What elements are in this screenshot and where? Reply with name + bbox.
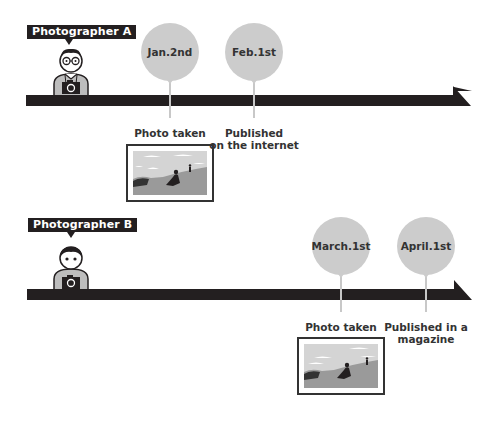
- date-label: March.1st: [312, 240, 371, 252]
- timeline-b-bar: [27, 289, 457, 300]
- timeline-a-bar: [26, 95, 456, 106]
- date-label: Jan.2nd: [148, 46, 193, 58]
- timeline-b-arrow-tip-icon: [451, 280, 473, 301]
- bubble-tip: [338, 274, 344, 278]
- date-bubble-jan-2nd: Jan.2nd: [141, 23, 199, 81]
- event-stem: [340, 274, 342, 312]
- date-label: Feb.1st: [232, 46, 276, 58]
- bubble-tip: [423, 274, 429, 278]
- event-stem: [169, 80, 171, 118]
- date-label: April.1st: [401, 240, 452, 252]
- event-stem: [253, 80, 255, 118]
- bubble-tip: [251, 80, 257, 84]
- photographer-a-tag: Photographer A: [27, 25, 136, 39]
- landscape-photo-icon: [133, 151, 207, 195]
- date-bubble-feb-1st: Feb.1st: [225, 23, 283, 81]
- photographer-b-tag: Photographer B: [28, 218, 137, 232]
- tag-pointer: [67, 232, 75, 238]
- photo-thumbnail: [297, 337, 385, 395]
- date-bubble-april-1st: April.1st: [397, 217, 455, 275]
- landscape-photo-icon: [304, 344, 378, 388]
- event-label-published-magazine: Published in a magazine: [366, 321, 486, 345]
- event-stem: [425, 274, 427, 312]
- photographer-a-person-icon: [50, 44, 92, 102]
- camera-icon: [62, 80, 80, 94]
- photo-thumbnail: [126, 144, 214, 202]
- bubble-tip: [167, 80, 173, 84]
- date-bubble-march-1st: March.1st: [312, 217, 370, 275]
- event-label-published-internet: Published on the internet: [194, 127, 314, 151]
- timeline-a-arrow-tip-icon: [450, 86, 472, 107]
- camera-icon: [62, 275, 80, 289]
